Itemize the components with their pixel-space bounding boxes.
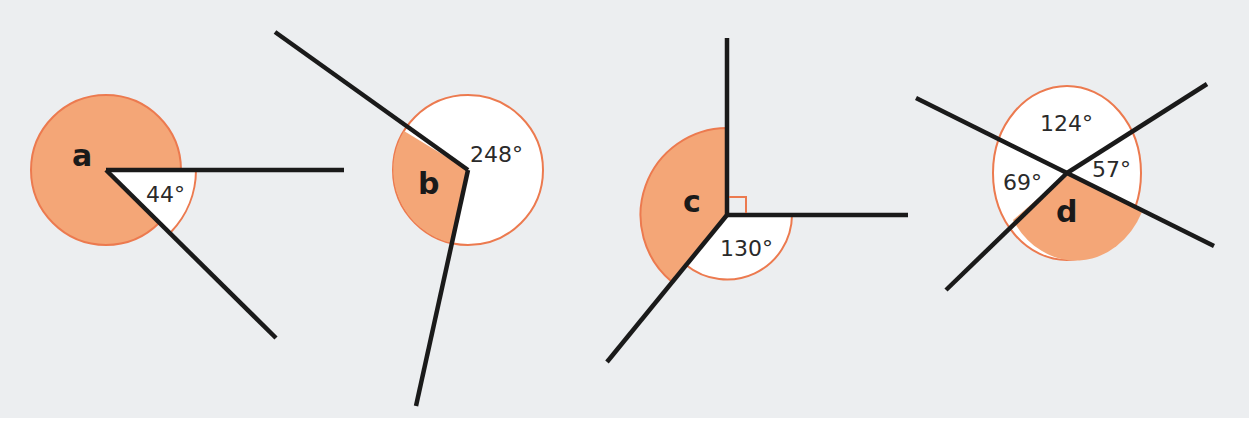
diagram-d-angle-label-top: 124° bbox=[1040, 111, 1093, 136]
diagram-a-unknown-label: a bbox=[72, 138, 92, 173]
diagram-d-angle-label-right: 57° bbox=[1092, 157, 1131, 182]
diagram-b-angle-label: 248° bbox=[470, 142, 523, 167]
diagram-d: 124° 57° 69° d bbox=[916, 84, 1214, 290]
diagram-a-angle-label: 44° bbox=[146, 182, 185, 207]
diagram-c-angle-label: 130° bbox=[720, 236, 773, 261]
diagram-d-angle-label-left: 69° bbox=[1003, 170, 1042, 195]
diagram-c-right-angle-mark bbox=[729, 197, 746, 213]
diagram-c: c 130° bbox=[607, 38, 908, 362]
diagram-c-unknown-label: c bbox=[683, 184, 701, 219]
diagram-b: b 248° bbox=[275, 32, 543, 406]
diagram-b-unknown-label: b bbox=[418, 166, 439, 201]
diagram-a: a 44° bbox=[31, 95, 344, 338]
diagram-d-unknown-label: d bbox=[1056, 194, 1077, 229]
angle-diagrams: a 44° b 248° c 130° 124° 57° bbox=[0, 0, 1249, 432]
